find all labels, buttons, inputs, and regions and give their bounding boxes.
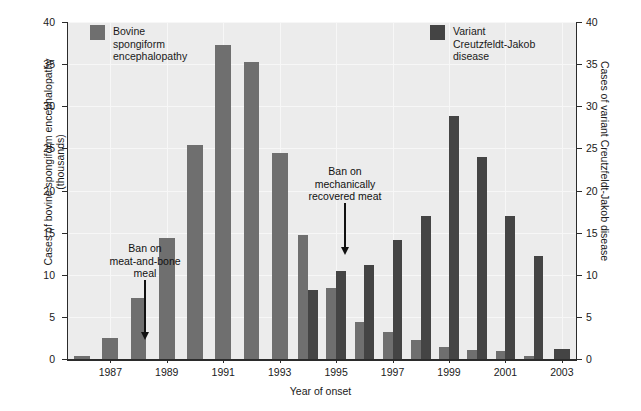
x-tick-label: 1987 [99, 366, 122, 378]
x-tick-label: 1995 [324, 366, 347, 378]
y-tick-label-left: 5 [49, 312, 55, 322]
y-tick-right [577, 64, 582, 65]
y-axis-left-line [67, 22, 68, 360]
y-tick-label-right: 35 [586, 59, 598, 69]
bar-bse-1991 [215, 45, 231, 359]
bar-bse-1999 [439, 347, 449, 359]
y-tick-right [577, 317, 582, 318]
y-axis-right-title: Cases of variant Creutzfeldt-Jakob disea… [599, 11, 611, 311]
bar-bse-1987 [102, 338, 118, 359]
bar-bse-1996 [355, 322, 365, 359]
y-tick-right [577, 106, 582, 107]
annotation-text-mbm: Ban on meat-and-bone meal [90, 242, 200, 280]
y-tick-label-right: 30 [586, 101, 598, 111]
y-tick-right [577, 191, 582, 192]
bar-bse-2001 [496, 351, 506, 359]
y-tick-label-right: 10 [586, 270, 598, 280]
x-tick-label: 1989 [155, 366, 178, 378]
y-tick-right [577, 359, 582, 360]
x-tick-label: 1991 [212, 366, 235, 378]
legend-swatch-vcjd [430, 25, 445, 40]
bar-vcjd-1995 [336, 271, 346, 359]
bar-bse-1998 [411, 340, 421, 359]
bar-vcjd-1998 [421, 216, 431, 359]
bar-bse-1997 [383, 332, 393, 359]
annotation-arrow-mrm [341, 203, 349, 255]
legend-swatch-bse [90, 25, 105, 40]
y-tick-right [577, 22, 582, 23]
bar-vcjd-1997 [393, 240, 403, 359]
y-tick-label-right: 15 [586, 228, 598, 238]
x-tick-label: 2001 [494, 366, 517, 378]
y-axis-left-title: Cases of bovine spongiform encephalopath… [42, 12, 66, 312]
x-tick-label: 1993 [268, 366, 291, 378]
x-tick [393, 359, 394, 363]
bar-vcjd-1994 [308, 290, 318, 359]
x-tick [110, 359, 111, 363]
x-tick [280, 359, 281, 363]
bar-vcjd-2003 [554, 349, 570, 359]
bar-vcjd-1996 [364, 265, 374, 359]
bar-vcjd-2002 [534, 256, 544, 359]
bse-vcjd-chart: 0510152025303540 0510152025303540 198719… [0, 0, 641, 411]
x-tick [336, 359, 337, 363]
x-tick-label: 2003 [550, 366, 573, 378]
bar-vcjd-2001 [505, 216, 515, 359]
bar-vcjd-2000 [477, 157, 487, 359]
legend-item-vcjd: Variant Creutzfeldt-Jakob disease [430, 25, 535, 63]
y-tick-left [62, 317, 67, 318]
y-tick-left [62, 359, 67, 360]
x-tick-label: 1999 [437, 366, 460, 378]
bar-bse-1995 [326, 288, 336, 359]
y-tick-right [577, 148, 582, 149]
annotation-arrow-mbm [141, 280, 149, 340]
annotation-ban-mechanically-recovered-meat: Ban on mechanically recovered meat [285, 165, 405, 203]
y-tick-label-right: 40 [586, 17, 598, 27]
y-tick-label-right: 5 [586, 312, 592, 322]
y-tick-right [577, 275, 582, 276]
legend-label-vcjd: Variant Creutzfeldt-Jakob disease [453, 25, 535, 63]
bar-bse-2000 [467, 350, 477, 359]
x-tick [505, 359, 506, 363]
x-tick [449, 359, 450, 363]
bar-bse-1992 [244, 62, 260, 359]
x-tick [167, 359, 168, 363]
annotation-text-mrm: Ban on mechanically recovered meat [285, 165, 405, 203]
y-tick-label-left: 0 [49, 354, 55, 364]
x-tick [223, 359, 224, 363]
x-axis-line [67, 359, 577, 361]
x-tick [562, 359, 563, 363]
annotation-ban-meat-and-bone-meal: Ban on meat-and-bone meal [90, 242, 200, 280]
y-tick-label-right: 0 [586, 354, 592, 364]
bar-bse-1994 [298, 235, 308, 359]
y-tick-right [577, 233, 582, 234]
y-tick-label-right: 20 [586, 186, 598, 196]
bar-vcjd-1999 [449, 116, 459, 359]
y-tick-label-right: 25 [586, 143, 598, 153]
legend-label-bse: Bovine spongiform encephalopathy [113, 25, 187, 63]
x-axis-title: Year of onset [0, 385, 641, 397]
x-tick-label: 1997 [381, 366, 404, 378]
legend-item-bse: Bovine spongiform encephalopathy [90, 25, 187, 63]
